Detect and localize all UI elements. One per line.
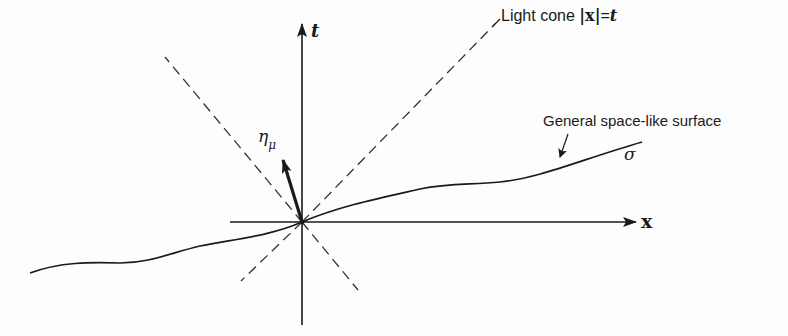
light-cone-past-left [241,222,302,281]
t-axis-label: t [311,22,319,40]
light-cone-future-left [165,57,302,222]
sigma-label-text: σ [624,144,636,164]
normal-vector-arrow [283,160,302,222]
sigma-label: σ [624,146,636,163]
normal-vector-label-mu: μ [268,138,276,152]
x-axis-label: x [641,212,652,231]
surface-label: General space-like surface [543,113,721,128]
light-cone-label-abs-x: |x| [579,6,600,25]
t-axis-label-text: t [311,20,319,41]
spacelike-surface-curve [30,142,642,273]
light-cone-label-equals: = [600,7,609,24]
spacetime-diagram: t x Light cone |x|=t General space-like … [0,0,788,336]
surface-leader-arrow [560,134,568,157]
light-cone-label-prefix: Light cone [501,7,579,24]
normal-vector-label-eta: η [258,126,268,146]
light-cone-label: Light cone |x|=t [501,8,617,24]
origin-point [300,220,304,224]
normal-vector-label: ημ [258,128,276,148]
light-cone-label-t: t [610,6,617,25]
light-cone-future-right [302,24,495,222]
light-cone-past-right [302,222,358,290]
diagram-graphics [0,0,788,336]
x-axis-label-text: x [641,210,652,232]
surface-label-text: General space-like surface [543,112,721,129]
light-cone-leader [493,19,500,26]
